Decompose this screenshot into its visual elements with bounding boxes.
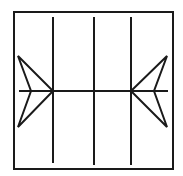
diagram-canvas — [0, 0, 183, 176]
